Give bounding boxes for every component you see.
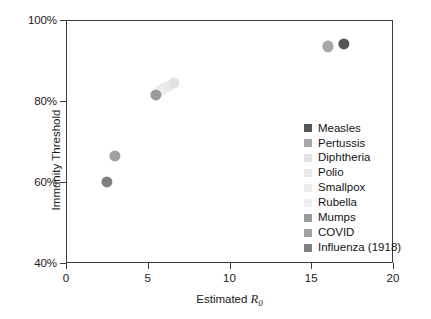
legend-swatch-icon	[304, 229, 312, 237]
legend-swatch-icon	[304, 169, 312, 177]
chart-figure: Immunity Threshold 40%60%80%100%05101520…	[0, 0, 431, 319]
data-point-influenza-1918	[101, 176, 112, 187]
legend-label: Influenza (1918)	[318, 242, 401, 254]
legend-swatch-icon	[304, 214, 312, 222]
x-axis-title-prefix: Estimated	[196, 293, 250, 305]
legend-swatch-icon	[304, 199, 312, 207]
legend-swatch-icon	[304, 244, 312, 252]
legend-item-polio: Polio	[304, 166, 401, 181]
x-axis-tick	[230, 263, 231, 269]
x-axis-tick-label: 0	[63, 272, 69, 284]
y-axis-tick-label: 80%	[34, 95, 57, 107]
y-axis-tick-label: 60%	[34, 176, 57, 188]
legend-swatch-icon	[304, 154, 312, 162]
y-axis-title: Immunity Threshold	[50, 109, 62, 210]
legend-item-diphtheria: Diphtheria	[304, 151, 401, 166]
legend-swatch-icon	[304, 139, 312, 147]
legend-item-rubella: Rubella	[304, 195, 401, 210]
y-axis-tick-label: 100%	[28, 14, 57, 26]
x-axis-title-subscript: 0	[258, 298, 263, 308]
legend-item-covid: COVID	[304, 225, 401, 240]
y-axis-tick-label: 40%	[34, 257, 57, 269]
data-point-diphtheria	[168, 77, 179, 88]
x-axis-tick	[148, 263, 149, 269]
legend-item-pertussis: Pertussis	[304, 136, 401, 151]
x-axis-tick-label: 10	[223, 272, 236, 284]
legend-label: COVID	[318, 227, 354, 239]
legend-label: Measles	[318, 123, 361, 135]
legend-item-measles: Measles	[304, 121, 401, 136]
legend-item-smallpox: Smallpox	[304, 181, 401, 196]
x-axis-tick	[66, 263, 67, 269]
legend-label: Diphtheria	[318, 152, 370, 164]
x-axis-tick	[311, 263, 312, 269]
x-axis-title: Estimated R0	[66, 292, 393, 308]
x-axis-tick-label: 15	[305, 272, 318, 284]
legend-label: Pertussis	[318, 138, 365, 150]
data-point-measles	[338, 39, 349, 50]
legend-label: Smallpox	[318, 182, 365, 194]
legend-label: Polio	[318, 167, 344, 179]
legend-label: Mumps	[318, 212, 356, 224]
data-point-mumps	[150, 89, 161, 100]
chart-legend: MeaslesPertussisDiphtheriaPolioSmallpoxR…	[304, 121, 401, 255]
x-axis-tick-label: 20	[387, 272, 400, 284]
x-axis-tick-label: 5	[145, 272, 151, 284]
y-axis-tick	[60, 182, 66, 183]
data-point-pertussis	[322, 41, 333, 52]
legend-label: Rubella	[318, 197, 357, 209]
legend-item-influenza-1918: Influenza (1918)	[304, 240, 401, 255]
y-axis-tick	[60, 20, 66, 21]
data-point-covid	[109, 150, 120, 161]
legend-item-mumps: Mumps	[304, 210, 401, 225]
x-axis-tick	[393, 263, 394, 269]
legend-swatch-icon	[304, 124, 312, 132]
y-axis-tick	[60, 101, 66, 102]
legend-swatch-icon	[304, 184, 312, 192]
